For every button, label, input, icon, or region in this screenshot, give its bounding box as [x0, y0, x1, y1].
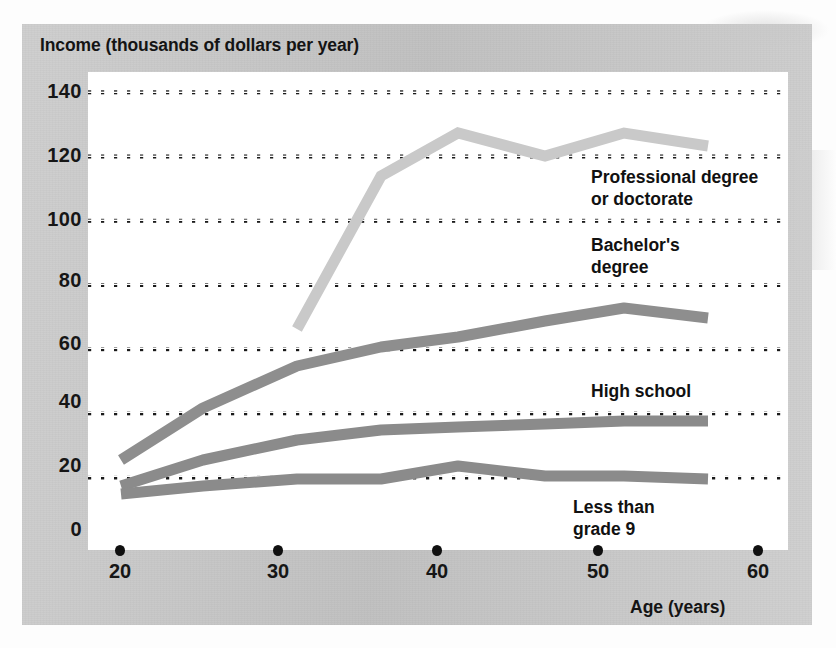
x-tick-label-30: 30 — [248, 560, 308, 583]
x-tick-dot-30 — [273, 545, 283, 556]
x-tick-dot-60 — [753, 545, 763, 556]
x-tick-dot-40 — [432, 545, 442, 556]
x-tick-label-20: 20 — [90, 560, 150, 583]
y-tick-label-80: 80 — [22, 269, 82, 292]
y-tick-label-0: 0 — [22, 518, 82, 541]
y-axis-title: Income (thousands of dollars per year) — [40, 35, 359, 56]
figure-container: Income (thousands of dollars per year) 1… — [0, 0, 836, 648]
series-label-highschool: High school — [591, 381, 691, 403]
x-tick-dot-20 — [115, 545, 125, 556]
y-tick-label-120: 120 — [22, 144, 82, 167]
x-tick-label-40: 40 — [407, 560, 467, 583]
y-tick-label-60: 60 — [22, 332, 82, 355]
chart-svg — [88, 72, 788, 550]
y-tick-label-40: 40 — [22, 390, 82, 413]
series-label-bachelors: Bachelor's degree — [591, 235, 680, 279]
x-tick-label-60: 60 — [728, 560, 788, 583]
series-label-professional: Professional degree or doctorate — [591, 167, 758, 211]
x-tick-dot-50 — [593, 545, 603, 556]
y-tick-label-140: 140 — [22, 80, 82, 103]
series-line-professional — [297, 133, 708, 329]
plot-area: Professional degree or doctorate Bachelo… — [88, 72, 788, 550]
y-tick-label-20: 20 — [22, 454, 82, 477]
x-tick-label-50: 50 — [568, 560, 628, 583]
series-line-lessthan9 — [121, 466, 708, 494]
series-label-lessthan9: Less than grade 9 — [573, 497, 655, 541]
y-tick-label-100: 100 — [22, 208, 82, 231]
x-axis-title: Age (years) — [630, 597, 725, 618]
